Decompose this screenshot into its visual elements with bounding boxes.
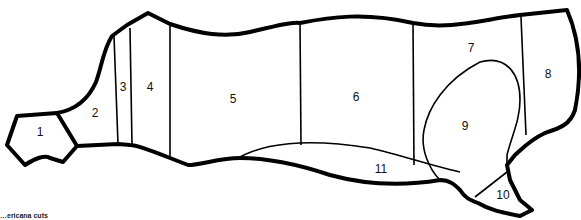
divider-3-4 bbox=[130, 28, 132, 145]
label-cut-4: 4 bbox=[147, 80, 154, 94]
cut-9-outline bbox=[423, 60, 520, 180]
label-cut-7: 7 bbox=[468, 41, 475, 55]
label-cut-1: 1 bbox=[37, 125, 44, 139]
meat-cuts-diagram: 1 2 3 4 5 6 7 8 9 10 11 bbox=[0, 0, 581, 220]
divider-1-2 bbox=[57, 113, 77, 146]
label-cut-2: 2 bbox=[92, 106, 99, 120]
label-cut-10: 10 bbox=[496, 188, 510, 202]
divider-5-6 bbox=[300, 23, 301, 145]
divider-7-8 bbox=[521, 17, 526, 135]
label-cut-3: 3 bbox=[120, 80, 127, 94]
label-cut-11: 11 bbox=[375, 162, 388, 176]
label-cut-6: 6 bbox=[353, 90, 360, 104]
divider-2-3 bbox=[114, 36, 118, 144]
diagram-caption: …ericana cuts bbox=[0, 212, 48, 219]
label-cut-9: 9 bbox=[462, 119, 469, 133]
divider-6-7 bbox=[413, 23, 414, 165]
carcass-outline bbox=[57, 10, 579, 216]
label-cut-5: 5 bbox=[230, 92, 237, 106]
label-cut-8: 8 bbox=[545, 67, 552, 81]
